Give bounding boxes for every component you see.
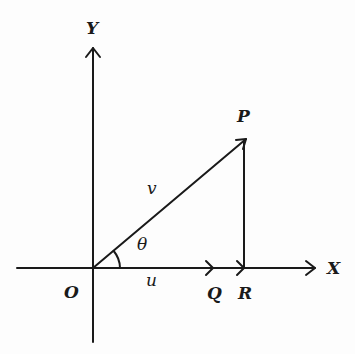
vector-v-label: v <box>147 180 157 197</box>
point-p-label: P <box>237 108 250 125</box>
x-axis-label: X <box>327 260 340 277</box>
origin-label: O <box>64 284 79 301</box>
point-r-label: R <box>238 285 252 302</box>
vector-v-line <box>93 139 246 268</box>
theta-arc <box>114 251 120 268</box>
point-q-label: Q <box>207 285 222 302</box>
vector-diagram: Y X O P Q R v u θ <box>0 0 355 354</box>
angle-theta-label: θ <box>137 236 147 253</box>
diagram-svg <box>0 0 355 354</box>
vector-u-label: u <box>146 272 157 289</box>
y-axis-label: Y <box>86 20 98 37</box>
